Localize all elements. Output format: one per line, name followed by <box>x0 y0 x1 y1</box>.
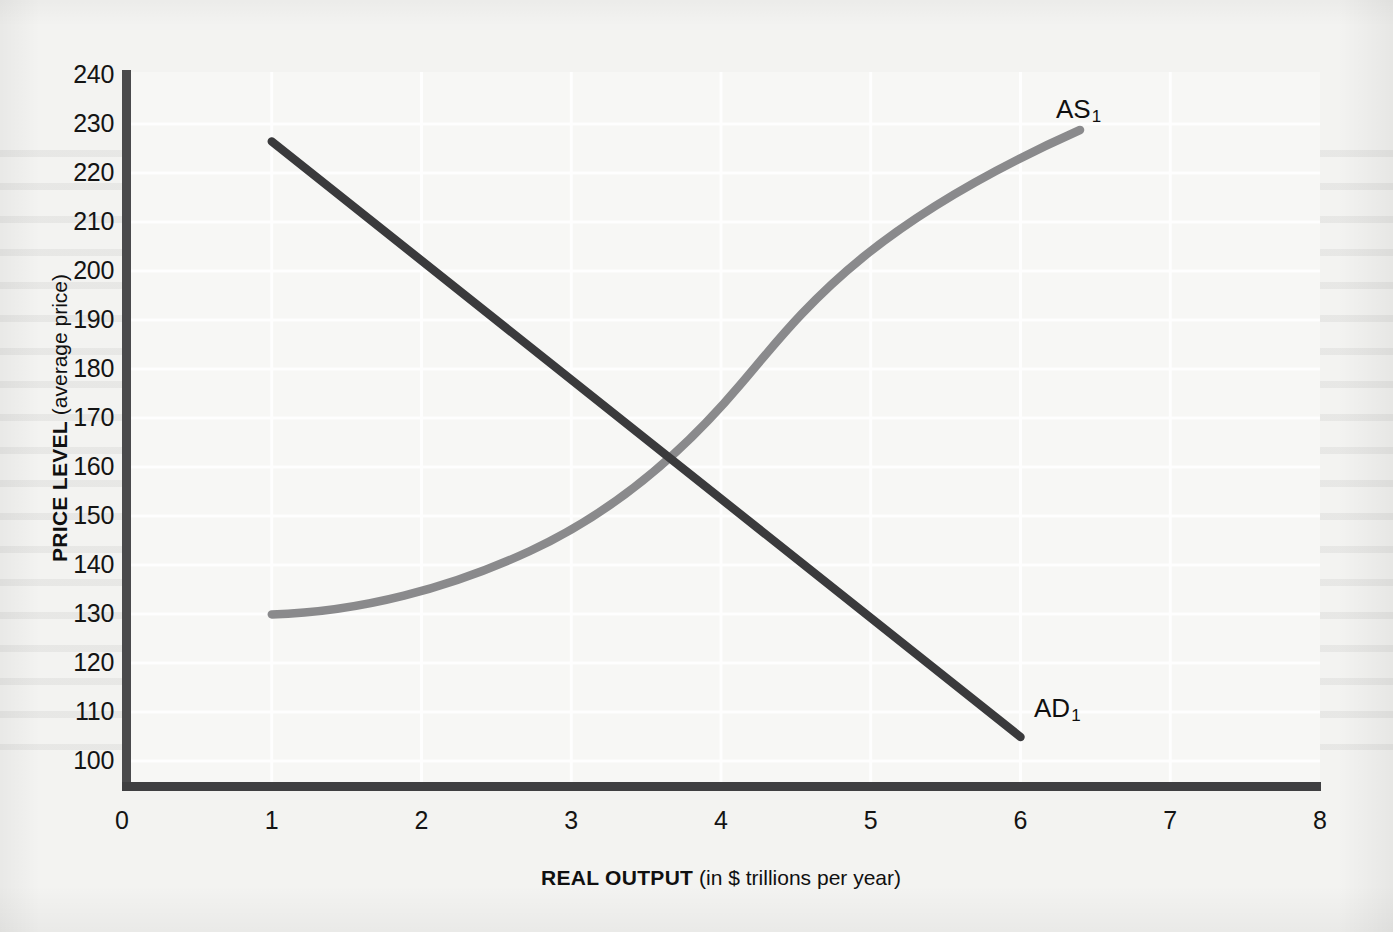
y-tick-240: 240 <box>44 60 114 89</box>
as1-curve-label: AS1 <box>1056 94 1101 125</box>
x-tick-8: 8 <box>1290 806 1350 835</box>
x-tick-5: 5 <box>841 806 901 835</box>
x-tick-7: 7 <box>1140 806 1200 835</box>
x-axis-title: REAL OUTPUT (in $ trillions per year) <box>122 866 1320 890</box>
ad1-curve-label: AD1 <box>1034 693 1081 724</box>
x-axis-title-rest: (in $ trillions per year) <box>693 866 901 889</box>
y-tick-100: 100 <box>44 746 114 775</box>
as1-label-subscript: 1 <box>1091 107 1101 126</box>
ad1-label-text: AD <box>1034 693 1070 723</box>
x-axis-tick-labels: 0 1 2 3 4 5 6 7 8 <box>0 806 1393 846</box>
y-axis-tick-labels: 240 230 220 210 200 190 180 170 160 150 … <box>32 0 114 932</box>
x-tick-3: 3 <box>541 806 601 835</box>
x-tick-4: 4 <box>691 806 751 835</box>
x-tick-6: 6 <box>991 806 1051 835</box>
ad1-label-subscript: 1 <box>1070 706 1080 725</box>
y-axis-title-bold: PRICE LEVEL <box>48 421 71 562</box>
chart-plot-svg <box>0 0 1393 932</box>
x-tick-1: 1 <box>242 806 302 835</box>
as1-label-text: AS <box>1056 94 1091 124</box>
y-axis-title-rest: (average price) <box>48 274 71 421</box>
aggregate-demand-supply-chart: 240 230 220 210 200 190 180 170 160 150 … <box>0 0 1393 932</box>
x-tick-0: 0 <box>92 806 152 835</box>
x-tick-2: 2 <box>392 806 452 835</box>
x-axis-title-bold: REAL OUTPUT <box>541 866 693 889</box>
y-axis-title: PRICE LEVEL (average price) <box>48 98 72 738</box>
